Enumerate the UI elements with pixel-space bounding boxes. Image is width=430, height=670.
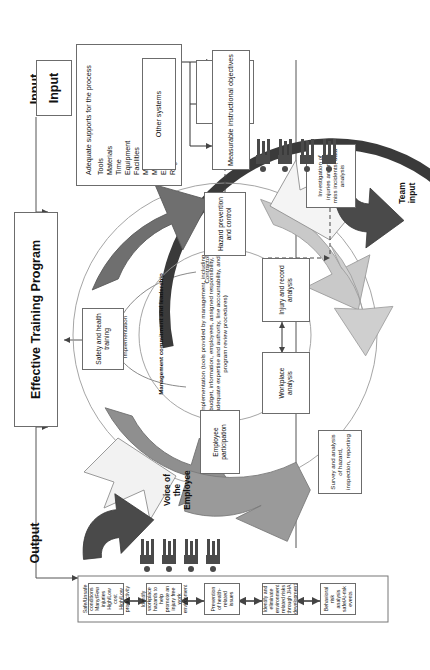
other-systems-box: Other systems	[142, 58, 176, 170]
diagram-canvas: Input Effective Training Program Output …	[0, 0, 430, 670]
wheel-node-hazard-prevention-control[interactable]: Hazard prevention and control	[204, 192, 246, 256]
output-box-3: Prevention of health-related issues	[204, 583, 240, 615]
person-icon-wrap	[182, 538, 204, 572]
person-icon	[276, 138, 294, 172]
effective-training-program-box: Effective Training Program	[14, 212, 58, 427]
voice-line-1: Voice of	[162, 474, 172, 506]
voice-line-2: the	[172, 484, 182, 497]
voice-people-group	[138, 532, 224, 572]
output-box-1: Safe/Unsafe conditions Many/Few injuries…	[88, 583, 124, 615]
output-box-2: Identify workplace hazards to help promo…	[146, 583, 182, 615]
output-label: Output	[22, 512, 48, 574]
team-input-line-2: input	[407, 183, 417, 203]
team-input-line-1: Team	[397, 182, 407, 203]
person-icon	[320, 138, 338, 172]
person-icon-wrap	[160, 538, 182, 572]
team-people-group	[254, 132, 344, 172]
person-icon	[298, 138, 316, 172]
person-icon	[254, 138, 272, 172]
person-icon	[182, 538, 200, 572]
implementation-center-text: Implementation (tools provided by manage…	[176, 246, 252, 422]
wheel-node-injury-record-analysis[interactable]: Injury and record analysis	[262, 258, 310, 322]
team-input-label: Team input	[392, 164, 422, 222]
adequate-supports-heading: Adequate supports for the process	[85, 65, 93, 175]
voice-line-3: Employee	[182, 470, 192, 510]
person-icon	[160, 538, 178, 572]
measurable-objectives-box: Measurable instructional objectives	[212, 50, 250, 170]
person-icon-wrap	[254, 138, 276, 172]
person-icon	[204, 538, 222, 572]
wheel-node-safety-health-training[interactable]: Safety and health training	[82, 308, 124, 370]
side-box-survey-analysis: Survey and analysis of hazard, inspectio…	[318, 430, 362, 494]
person-icon-wrap	[298, 138, 320, 172]
person-icon-wrap	[276, 138, 298, 172]
wheel-node-employee-participation[interactable]: Employee participation	[200, 410, 240, 474]
person-icon-wrap	[320, 138, 342, 172]
voice-of-employee-label: Voice of the Employee	[154, 460, 200, 520]
output-box-4: Identify and eliminate environment relat…	[262, 583, 298, 615]
management-commitment-heading: Management commitment and leadership	[150, 256, 172, 412]
person-icon-wrap	[138, 538, 160, 572]
wheel-node-workplace-analysis[interactable]: Workplace analysis	[262, 352, 310, 414]
person-icon-wrap	[204, 538, 226, 572]
output-box-5: Behavioral risk analysis safe/At-risk ev…	[320, 583, 356, 615]
person-icon	[138, 538, 156, 572]
input-box-bottom: Input	[36, 60, 72, 116]
